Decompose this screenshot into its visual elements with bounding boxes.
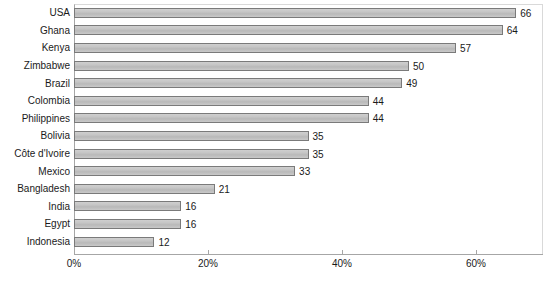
bar-track: 44 <box>74 92 553 110</box>
bar <box>74 237 154 247</box>
bar-track: 33 <box>74 162 553 180</box>
bar-row: Philippines44 <box>0 110 553 128</box>
bar-row: Mexico33 <box>0 162 553 180</box>
category-label: Zimbabwe <box>0 60 70 71</box>
x-axis-tick-marks <box>74 249 543 255</box>
bar-value-label: 50 <box>413 60 424 71</box>
bar <box>74 96 369 106</box>
category-label: Kenya <box>0 42 70 53</box>
bar-track: 35 <box>74 145 553 163</box>
bar-track: 35 <box>74 127 553 145</box>
bar-chart: USA66Ghana64Kenya57Zimbabwe50Brazil49Col… <box>0 0 553 286</box>
bar-track: 16 <box>74 198 553 216</box>
bar-track: 16 <box>74 215 553 233</box>
bar-value-label: 16 <box>185 218 196 229</box>
category-label: Bolivia <box>0 130 70 141</box>
bar-row: Kenya57 <box>0 39 553 57</box>
x-axis-tick-mark <box>476 250 477 255</box>
category-label: Indonesia <box>0 236 70 247</box>
bar-track: 49 <box>74 74 553 92</box>
category-label: USA <box>0 7 70 18</box>
bar-value-label: 16 <box>185 201 196 212</box>
bar <box>74 43 456 53</box>
bar <box>74 149 309 159</box>
bar-value-label: 21 <box>219 183 230 194</box>
bar <box>74 78 402 88</box>
bar-row: Côte d'Ivoire35 <box>0 145 553 163</box>
bar-track: 50 <box>74 57 553 75</box>
bar <box>74 219 181 229</box>
category-label: Côte d'Ivoire <box>0 148 70 159</box>
bar-value-label: 44 <box>373 113 384 124</box>
bar <box>74 113 369 123</box>
bar-track: 12 <box>74 233 553 251</box>
bar-track: 66 <box>74 4 553 22</box>
category-label: Philippines <box>0 113 70 124</box>
x-axis-tick-label: 20% <box>198 258 218 270</box>
bar <box>74 8 516 18</box>
bar-value-label: 33 <box>299 166 310 177</box>
category-label: Bangladesh <box>0 183 70 194</box>
bar-row: Indonesia12 <box>0 233 553 251</box>
x-axis-tick-label: 40% <box>332 258 352 270</box>
bar-row: India16 <box>0 198 553 216</box>
category-label: Colombia <box>0 95 70 106</box>
bar <box>74 201 181 211</box>
bar-value-label: 12 <box>158 236 169 247</box>
bar-rows: USA66Ghana64Kenya57Zimbabwe50Brazil49Col… <box>0 4 553 254</box>
category-label: Brazil <box>0 78 70 89</box>
x-axis-tick-mark <box>208 250 209 255</box>
x-axis-tick-label: 0% <box>67 258 81 270</box>
bar <box>74 166 295 176</box>
category-label: Egypt <box>0 218 70 229</box>
bar-track: 21 <box>74 180 553 198</box>
bar-row: Bangladesh21 <box>0 180 553 198</box>
bar-row: Bolivia35 <box>0 127 553 145</box>
bar-value-label: 35 <box>313 148 324 159</box>
bar-row: Egypt16 <box>0 215 553 233</box>
bar-value-label: 66 <box>520 7 531 18</box>
x-axis-tick-mark <box>342 250 343 255</box>
x-axis-tick-labels: 0%20%40%60% <box>74 258 543 274</box>
bar-row: Ghana64 <box>0 22 553 40</box>
category-label: Mexico <box>0 166 70 177</box>
bar <box>74 61 409 71</box>
bar-value-label: 57 <box>460 42 471 53</box>
x-axis-tick-label: 60% <box>466 258 486 270</box>
bar-value-label: 44 <box>373 95 384 106</box>
bar-value-label: 35 <box>313 130 324 141</box>
bar-value-label: 49 <box>406 78 417 89</box>
bar-row: Zimbabwe50 <box>0 57 553 75</box>
bar-track: 57 <box>74 39 553 57</box>
bar <box>74 184 215 194</box>
bar-value-label: 64 <box>507 25 518 36</box>
bar-row: USA66 <box>0 4 553 22</box>
bar <box>74 25 503 35</box>
bar <box>74 131 309 141</box>
category-label: Ghana <box>0 25 70 36</box>
bar-track: 44 <box>74 110 553 128</box>
category-label: India <box>0 201 70 212</box>
bar-track: 64 <box>74 22 553 40</box>
bar-row: Brazil49 <box>0 74 553 92</box>
bar-row: Colombia44 <box>0 92 553 110</box>
x-axis-tick-mark <box>74 250 75 255</box>
